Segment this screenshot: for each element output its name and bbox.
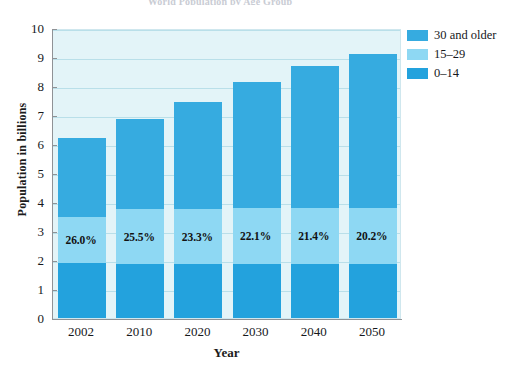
bar-2010[interactable] [116, 28, 164, 318]
y-tick-mark [52, 174, 57, 175]
bar-segment-0-14 [291, 264, 339, 318]
legend-item-15-29[interactable]: 15–29 [407, 46, 511, 63]
legend-swatch-30-and-older [407, 30, 428, 41]
y-tick-mark [52, 261, 57, 262]
bar-segment-0-14 [58, 263, 106, 318]
y-tick-mark [52, 58, 57, 59]
legend-swatch-15-29 [407, 49, 428, 60]
y-tick-label: 7 [14, 109, 44, 122]
bar-segment-30-and-older [174, 102, 222, 209]
bar-segment-0-14 [349, 264, 397, 318]
y-tick-mark [52, 203, 57, 204]
x-tick-label: 2002 [51, 325, 111, 338]
bar-segment-30-and-older [58, 138, 106, 216]
x-axis-title: Year [52, 345, 401, 361]
x-tick-label: 2050 [342, 325, 402, 338]
y-tick-mark [52, 290, 57, 291]
percent-label-2040: 21.4% [284, 230, 344, 242]
y-tick-label: 4 [14, 196, 44, 209]
bar-segment-0-14 [174, 264, 222, 318]
y-tick-mark [52, 145, 57, 146]
percent-label-2030: 22.1% [226, 230, 286, 242]
legend-item-30-and-older[interactable]: 30 and older [407, 27, 511, 44]
percent-label-2010: 25.5% [109, 231, 169, 243]
y-tick-label: 0 [14, 312, 44, 325]
legend-label-0-14: 0–14 [434, 66, 459, 81]
legend-item-0-14[interactable]: 0–14 [407, 65, 511, 82]
y-tick-mark [52, 116, 57, 117]
y-tick-label: 9 [14, 51, 44, 64]
y-tick-label: 6 [14, 138, 44, 151]
percent-label-2002: 26.0% [51, 234, 111, 246]
population-bar-chart: World Population by Age Group Population… [0, 0, 511, 375]
legend-label-30-and-older: 30 and older [434, 28, 496, 43]
y-tick-label: 1 [14, 283, 44, 296]
plot-area [52, 29, 401, 319]
legend: 30 and older 15–29 0–14 [407, 27, 511, 84]
x-tick-label: 2030 [226, 325, 286, 338]
bar-2050[interactable] [349, 28, 397, 318]
y-axis-title: Population in billions [15, 75, 30, 245]
chart-title: World Population by Age Group [0, 0, 440, 5]
x-tick-label: 2040 [284, 325, 344, 338]
y-tick-mark [52, 29, 57, 30]
bar-segment-30-and-older [291, 66, 339, 208]
x-axis-line [52, 319, 402, 320]
bar-2020[interactable] [174, 28, 222, 318]
y-tick-mark [52, 87, 57, 88]
bar-2030[interactable] [233, 28, 281, 318]
bar-segment-0-14 [116, 264, 164, 318]
bar-segment-30-and-older [349, 54, 397, 208]
bar-segment-30-and-older [233, 82, 281, 208]
bar-2002[interactable] [58, 28, 106, 318]
percent-label-2050: 20.2% [342, 230, 402, 242]
y-tick-label: 2 [14, 254, 44, 267]
legend-swatch-0-14 [407, 68, 428, 79]
x-tick-label: 2020 [167, 325, 227, 338]
y-tick-mark [52, 319, 57, 320]
x-tick-label: 2010 [109, 325, 169, 338]
bar-2040[interactable] [291, 28, 339, 318]
y-tick-label: 8 [14, 80, 44, 93]
y-tick-label: 10 [14, 22, 44, 35]
y-tick-label: 3 [14, 225, 44, 238]
percent-label-2020: 23.3% [167, 231, 227, 243]
legend-label-15-29: 15–29 [434, 47, 465, 62]
bar-segment-0-14 [233, 264, 281, 318]
y-tick-label: 5 [14, 167, 44, 180]
bar-segment-30-and-older [116, 119, 164, 209]
